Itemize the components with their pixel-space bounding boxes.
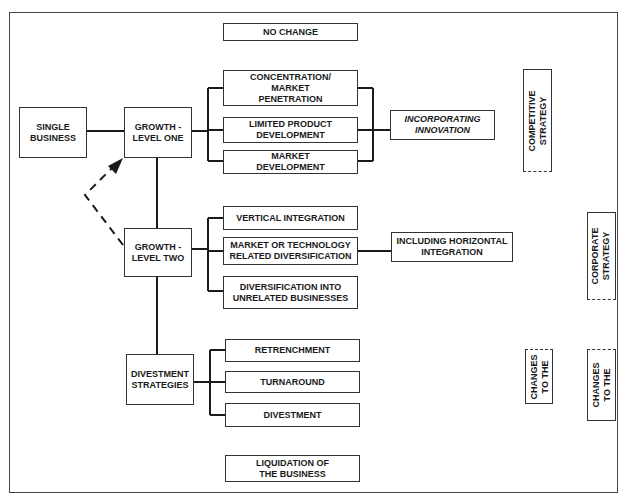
node-unrelated-diversification: DIVERSIFICATION INTO UNRELATED BUSINESSE…	[223, 276, 358, 309]
arrowhead-icon	[108, 158, 123, 174]
corporate-strategy-text: CORPORATE STRATEGY	[591, 228, 613, 285]
node-liquidation: LIQUIDATION OF THE BUSINESS	[225, 455, 360, 482]
node-limited-product: LIMITED PRODUCT DEVELOPMENT	[223, 117, 358, 143]
node-no-change: NO CHANGE	[223, 23, 358, 41]
node-divestment: DIVESTMENT	[225, 403, 360, 427]
node-horizontal-integration: INCLUDING HORIZONTAL INTEGRATION	[391, 232, 513, 262]
competitive-strategy-text: COMPETITIVE STRATEGY	[527, 90, 549, 151]
node-retrenchment: RETRENCHMENT	[225, 339, 360, 362]
label-changes-left: CHANGES TO THE	[525, 349, 553, 404]
node-turnaround: TURNAROUND	[225, 371, 360, 393]
node-concentration: CONCENTRATION/ MARKET PENETRATION	[223, 70, 358, 106]
node-growth-level-one: GROWTH - LEVEL ONE	[124, 107, 192, 158]
node-divestment-strategies: DIVESTMENT STRATEGIES	[126, 354, 194, 405]
node-related-diversification: MARKET OR TECHNOLOGY RELATED DIVERSIFICA…	[223, 237, 358, 265]
label-corporate-strategy: CORPORATE STRATEGY	[587, 212, 616, 300]
node-market-development: MARKET DEVELOPMENT	[223, 150, 358, 174]
node-single-business: SINGLE BUSINESS	[19, 107, 87, 158]
node-vertical-integration: VERTICAL INTEGRATION	[223, 206, 358, 230]
changes-right-text: CHANGES TO THE	[591, 362, 613, 407]
label-changes-right: CHANGES TO THE	[587, 349, 616, 421]
changes-left-text: CHANGES TO THE	[528, 354, 550, 399]
node-growth-level-two: GROWTH - LEVEL TWO	[124, 228, 192, 277]
node-incorporating-innovation: INCORPORATING INNOVATION	[390, 110, 495, 140]
label-competitive-strategy: COMPETITIVE STRATEGY	[523, 69, 552, 172]
